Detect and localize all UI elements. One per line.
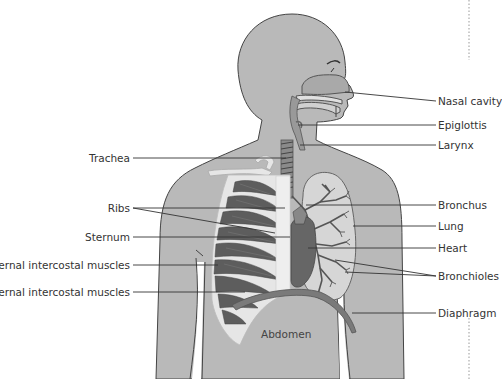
label-larynx: Larynx (438, 139, 474, 151)
label-heart: Heart (438, 242, 467, 254)
label-abdomen: Abdomen (261, 328, 311, 340)
label-nasal-cavity: Nasal cavity (438, 95, 502, 107)
label-lung: Lung (438, 220, 464, 232)
label-bronchus: Bronchus (438, 199, 487, 211)
label-internal-intercostal-muscles: Internal intercostal muscles (0, 286, 130, 298)
label-diaphragm: Diaphragm (438, 307, 496, 319)
sternum-shape (276, 176, 290, 294)
label-external-intercostal-muscles: External intercostal muscles (0, 259, 130, 271)
label-epiglottis: Epiglottis (438, 119, 487, 131)
label-ribs: Ribs (108, 202, 130, 214)
label-bronchioles: Bronchioles (438, 270, 499, 282)
label-trachea: Trachea (89, 152, 130, 164)
label-sternum: Sternum (85, 231, 130, 243)
